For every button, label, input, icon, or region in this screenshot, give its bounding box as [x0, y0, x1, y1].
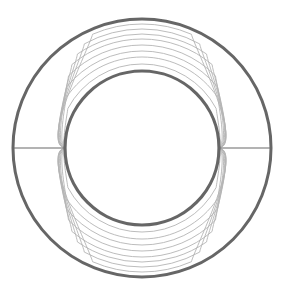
field-line [58, 148, 227, 272]
field-line [60, 148, 223, 245]
field-lines-upper-half [58, 24, 227, 148]
field-line [58, 39, 225, 148]
field-line [58, 24, 227, 148]
field-line [60, 51, 223, 148]
field-line [64, 64, 220, 148]
field-lines-lower-half [58, 148, 227, 272]
field-line [58, 148, 225, 257]
shield-field-diagram [0, 0, 283, 293]
inner-circle-core [65, 71, 219, 225]
field-line [64, 148, 220, 232]
